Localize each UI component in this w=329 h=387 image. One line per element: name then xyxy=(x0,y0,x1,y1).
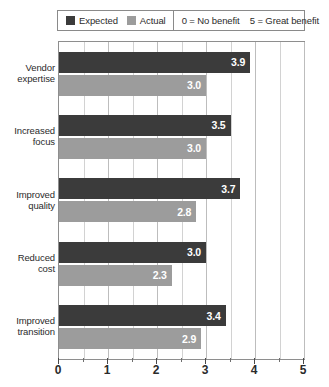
legend-label-actual: Actual xyxy=(140,15,166,26)
x-axis-labels: 012345 xyxy=(0,363,329,383)
bar-group: 3.02.3 xyxy=(59,232,304,295)
legend-scale-group: 0 = No benefit 5 = Great benefit xyxy=(173,11,326,30)
category-label-line: Improved xyxy=(0,315,55,326)
category-label-line: expertise xyxy=(0,73,55,84)
x-axis-tick-label: 5 xyxy=(300,363,307,377)
bar-value-label: 3.7 xyxy=(221,184,240,195)
category-label: Improvedtransition xyxy=(0,315,55,337)
x-axis-minor-tick xyxy=(132,358,133,362)
category-label-line: Increased xyxy=(0,125,55,136)
category-label: Improvedquality xyxy=(0,189,55,211)
x-axis-tick-label: 2 xyxy=(153,363,160,377)
category-label-line: transition xyxy=(0,326,55,337)
x-axis-tick-label: 4 xyxy=(251,363,258,377)
bar-actual: 2.3 xyxy=(59,265,172,286)
bar-actual: 2.8 xyxy=(59,201,196,222)
bar-expected: 3.7 xyxy=(59,178,240,199)
legend-item-expected: Expected xyxy=(66,15,118,26)
chart-legend: Expected Actual 0 = No benefit 5 = Great… xyxy=(57,10,305,31)
bar-group: 3.42.9 xyxy=(59,296,304,359)
x-axis-minor-tick xyxy=(83,358,84,362)
bar-group: 3.93.0 xyxy=(59,42,304,105)
category-label-line: Improved xyxy=(0,189,55,200)
bar-value-label: 3.5 xyxy=(212,120,231,131)
x-axis-tick-label: 3 xyxy=(202,363,209,377)
bar-value-label: 3.0 xyxy=(187,247,206,258)
category-label-line: focus xyxy=(0,136,55,147)
category-label-line: quality xyxy=(0,200,55,211)
legend-swatch-actual-icon xyxy=(127,16,136,25)
bar-value-label: 3.0 xyxy=(187,143,206,154)
bar-actual: 3.0 xyxy=(59,138,206,159)
bar-expected: 3.4 xyxy=(59,305,226,326)
x-axis-minor-tick xyxy=(279,358,280,362)
bar-value-label: 2.9 xyxy=(182,334,201,345)
scale-note-max: 5 = Great benefit xyxy=(250,15,319,26)
legend-swatch-expected-icon xyxy=(66,16,75,25)
category-label-line: cost xyxy=(0,263,55,274)
bar-expected: 3.0 xyxy=(59,242,206,263)
legend-item-actual: Actual xyxy=(127,15,166,26)
bar-group: 3.72.8 xyxy=(59,169,304,232)
category-label: Increasedfocus xyxy=(0,125,55,147)
plot-inner: 3.93.03.53.03.72.83.02.33.42.9 xyxy=(59,42,304,359)
bar-actual: 2.9 xyxy=(59,328,201,349)
bar-value-label: 2.3 xyxy=(153,270,172,281)
x-axis-minor-tick xyxy=(230,358,231,362)
bar-value-label: 3.4 xyxy=(207,311,226,322)
bar-expected: 3.5 xyxy=(59,115,231,136)
gridline xyxy=(304,42,305,359)
bar-value-label: 3.9 xyxy=(231,57,250,68)
category-label: Vendorexpertise xyxy=(0,62,55,84)
x-axis-minor-tick xyxy=(181,358,182,362)
category-axis-labels: VendorexpertiseIncreasedfocusImprovedqua… xyxy=(0,41,55,358)
category-label-line: Reduced xyxy=(0,252,55,263)
bar-expected: 3.9 xyxy=(59,52,250,73)
x-axis-tick-label: 0 xyxy=(55,363,62,377)
category-label: Reducedcost xyxy=(0,252,55,274)
bar-value-label: 3.0 xyxy=(187,80,206,91)
x-axis-tick-label: 1 xyxy=(104,363,111,377)
category-label-line: Vendor xyxy=(0,62,55,73)
legend-series-group: Expected Actual xyxy=(58,11,173,30)
bar-value-label: 2.8 xyxy=(177,207,196,218)
bar-group: 3.53.0 xyxy=(59,105,304,168)
legend-label-expected: Expected xyxy=(79,15,118,26)
scale-note-min: 0 = No benefit xyxy=(182,15,240,26)
bar-actual: 3.0 xyxy=(59,75,206,96)
plot-area: 3.93.03.53.03.72.83.02.33.42.9 xyxy=(58,41,305,360)
